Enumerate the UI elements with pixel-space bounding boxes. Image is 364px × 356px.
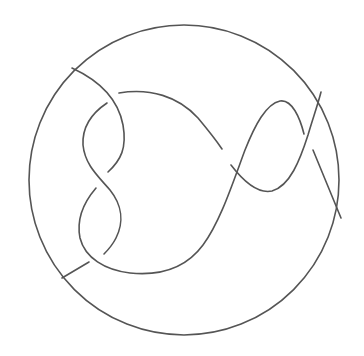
boundary-circle bbox=[29, 25, 339, 335]
strand-bottom-left-tail bbox=[62, 262, 89, 278]
strand-inner-lobe bbox=[83, 103, 121, 254]
knot-strands bbox=[62, 68, 341, 278]
strand-top-arc bbox=[119, 92, 222, 149]
strand-right-dip bbox=[231, 92, 321, 191]
knot-diagram-canvas bbox=[0, 0, 364, 356]
strand-outer-left bbox=[72, 68, 124, 172]
strand-long-main bbox=[79, 101, 304, 274]
strand-right-tail bbox=[313, 150, 341, 218]
knot-diagram bbox=[0, 0, 364, 356]
